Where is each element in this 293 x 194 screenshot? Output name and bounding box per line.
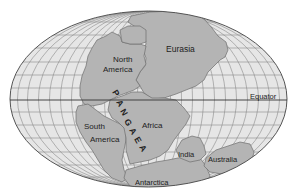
label-equator: Equator <box>250 92 277 101</box>
label-india: India <box>178 150 195 159</box>
label-south-america-line2: America <box>90 135 120 144</box>
label-north-america-line1: North <box>113 55 133 64</box>
label-africa: Africa <box>142 121 163 130</box>
label-antarctica: Antarctica <box>135 178 169 187</box>
landmass-greenland <box>120 26 146 44</box>
label-australia: Australia <box>208 155 238 164</box>
label-eurasia: Eurasia <box>166 44 195 54</box>
pangaea-map: Eurasia North America South America Afri… <box>0 0 293 194</box>
label-north-america-line2: America <box>103 65 133 74</box>
label-south-america-line1: South <box>84 122 105 131</box>
